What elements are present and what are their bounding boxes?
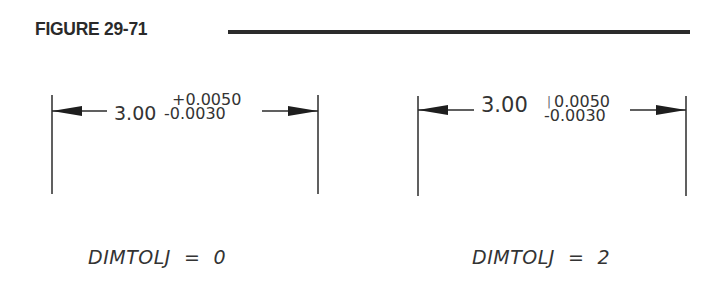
arrowhead-left-icon: [418, 105, 448, 115]
dimension-drawing-right: [0, 0, 723, 299]
caption-dimtolj-2: DIMTOLJ = 2: [472, 246, 610, 268]
basic-dimension-value: 3.00: [481, 95, 528, 116]
arrowhead-right-icon: [656, 105, 686, 115]
lower-tolerance: -0.0030: [544, 108, 606, 124]
panel-dimtolj-2: 3.00 | 0.0050 -0.0030 DIMTOLJ = 2: [0, 0, 723, 299]
